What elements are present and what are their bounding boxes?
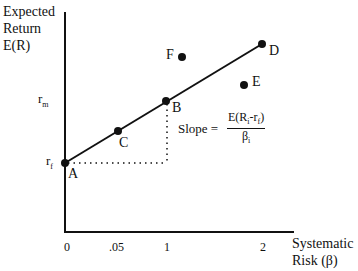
point-c bbox=[114, 127, 122, 135]
x-axis-title-line2: Risk (β) bbox=[292, 253, 338, 269]
point-b bbox=[162, 97, 170, 105]
point-d bbox=[258, 40, 266, 48]
point-f bbox=[178, 53, 186, 61]
slope-denominator: βi bbox=[227, 129, 265, 148]
slope-label: Slope = bbox=[178, 121, 218, 137]
slope-fraction: E(Ri-rf) βi bbox=[227, 111, 265, 149]
label-e: E bbox=[252, 74, 261, 90]
y-tick-rf: rf bbox=[46, 153, 53, 175]
y-axis-title-line1: Expected bbox=[3, 4, 55, 20]
y-tick-rm: rm bbox=[38, 91, 49, 113]
label-f: F bbox=[166, 47, 174, 63]
label-a: A bbox=[68, 166, 78, 182]
x-axis-title-line1: Systematic bbox=[292, 236, 353, 252]
x-tick-0: 0 bbox=[64, 240, 70, 254]
y-axis-title-line3: E(R) bbox=[3, 38, 30, 54]
x-tick-2: 2 bbox=[260, 240, 266, 254]
x-tick-1: 1 bbox=[164, 240, 170, 254]
point-e bbox=[240, 81, 248, 89]
x-tick-05: .05 bbox=[109, 240, 124, 254]
y-axis-title-line2: Return bbox=[3, 21, 41, 37]
label-b: B bbox=[172, 100, 181, 116]
label-c: C bbox=[119, 135, 128, 151]
slope-numerator: E(Ri-rf) bbox=[227, 111, 265, 129]
label-d: D bbox=[269, 43, 279, 59]
